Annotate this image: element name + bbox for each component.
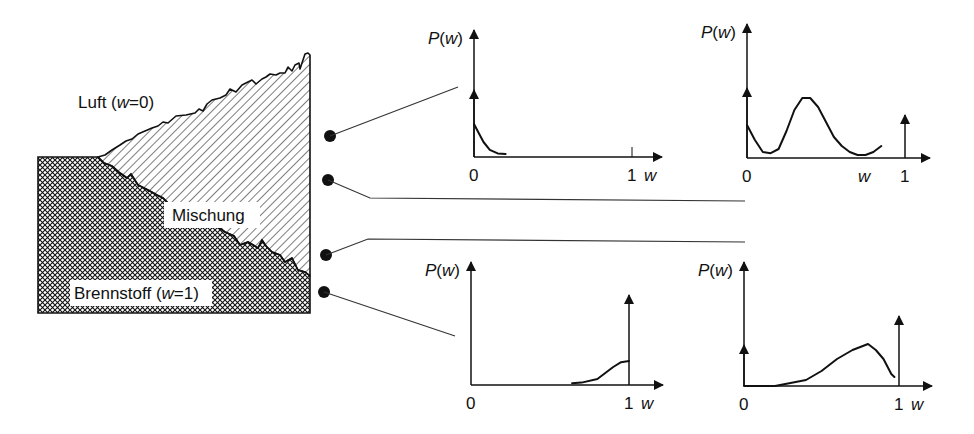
tick-label-0: 0 <box>739 395 748 414</box>
tick-label-1: 1 <box>624 394 633 413</box>
mixing-label: Mischung <box>172 206 245 225</box>
y-axis-label: P(w) <box>698 261 733 280</box>
y-axis-label: P(w) <box>428 29 463 48</box>
x-axis-label: w <box>911 395 925 414</box>
x-axis-label: w <box>858 167 872 186</box>
y-axis-label: P(w) <box>701 23 736 42</box>
connector-4 <box>324 292 455 336</box>
x-axis-label: w <box>644 166 658 185</box>
tick-label-1: 1 <box>894 395 903 414</box>
x-axis-label: w <box>641 394 655 413</box>
diagram-canvas: Mischung Luft (w=0) Brennstoff (w=1) P(w… <box>0 0 974 434</box>
tick-label-0: 0 <box>466 394 475 413</box>
connector-1 <box>330 87 458 136</box>
pdf-curve <box>474 124 506 154</box>
connector-2 <box>328 180 745 201</box>
pdf-curve <box>744 344 894 386</box>
fuel-label: Brennstoff (w=1) <box>74 284 199 303</box>
tick-label-1: 1 <box>900 167 909 186</box>
tick-label-0: 0 <box>742 167 751 186</box>
tick-label-0: 0 <box>469 166 478 185</box>
tick-label-1: 1 <box>627 166 636 185</box>
air-label: Luft (w=0) <box>78 93 154 112</box>
pdf-curve <box>747 98 881 155</box>
y-axis-label: P(w) <box>425 261 460 280</box>
connector-3 <box>326 239 745 255</box>
pdf-curve <box>572 361 629 383</box>
